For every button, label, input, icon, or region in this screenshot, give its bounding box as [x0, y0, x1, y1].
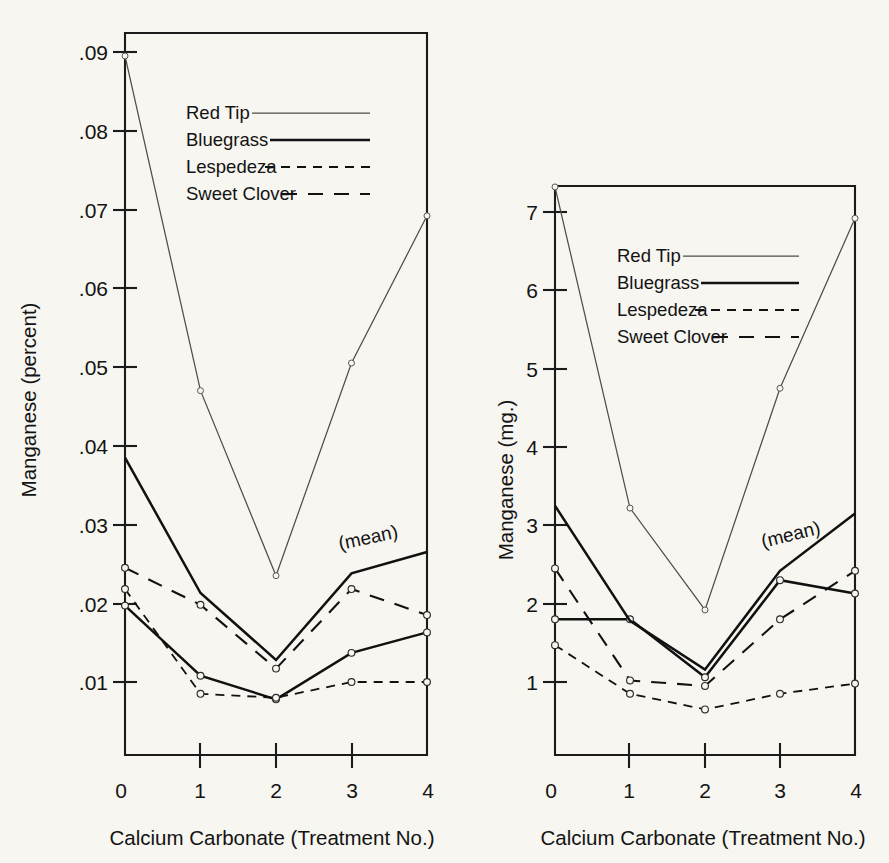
- right-series-layer: [552, 184, 859, 713]
- legend-label-red-tip: Red Tip: [186, 102, 250, 123]
- data-point-bluegrass-4: [424, 629, 431, 636]
- data-point-red-tip-4: [852, 215, 858, 221]
- left-y-tick-labels: .09 .08 .07 .06 .05 .04 .03 .02 .01: [79, 41, 109, 694]
- data-point-sweet-clover-1: [197, 601, 204, 608]
- right-xtick-label-4: 4: [850, 779, 862, 802]
- chart-panel-left: Manganese (percent) .09 .08 .07 .06: [0, 0, 444, 863]
- data-point-red-tip-0: [122, 53, 128, 59]
- data-point-red-tip-1: [198, 388, 204, 394]
- left-legend: Red Tip Bluegrass Lespedeza Sweet Clover: [186, 102, 370, 204]
- data-point-bluegrass-3: [777, 577, 784, 584]
- left-y-axis-title: Manganese (percent): [17, 303, 40, 498]
- data-point-bluegrass-1: [197, 672, 204, 679]
- right-xtick-label-0: 0: [545, 779, 557, 802]
- right-ytick-label-3: 4: [526, 436, 538, 459]
- data-point-sweet-clover-3: [777, 616, 784, 623]
- data-point-sweet-clover-0: [122, 564, 129, 571]
- left-series-layer: [122, 53, 431, 703]
- right-xtick-label-2: 2: [699, 779, 711, 802]
- data-point-lespedeza-2: [702, 706, 709, 713]
- series-line-sweet-clover: [125, 568, 427, 669]
- right-chart-svg: Manganese (mg.) 7 6 5 4 3 2 1: [445, 0, 889, 863]
- data-point-bluegrass-3: [348, 649, 355, 656]
- data-point-sweet-clover-3: [348, 586, 355, 593]
- data-point-red-tip-2: [702, 607, 708, 613]
- chart-panel-right: Manganese (mg.) 7 6 5 4 3 2 1: [445, 0, 889, 863]
- series-line-bluegrass: [555, 580, 855, 677]
- data-point-lespedeza-0: [552, 642, 559, 649]
- right-xtick-label-3: 3: [774, 779, 786, 802]
- data-point-lespedeza-3: [348, 679, 355, 686]
- data-point-red-tip-0: [552, 184, 558, 190]
- right-y-tick-labels: 7 6 5 4 3 2 1: [526, 201, 538, 694]
- left-mean-annotation: (mean): [336, 521, 399, 554]
- right-xtick-label-1: 1: [623, 779, 635, 802]
- left-ytick-label-2: .07: [79, 199, 108, 222]
- left-xtick-label-0: 0: [115, 779, 127, 802]
- data-point-sweet-clover-2: [273, 665, 280, 672]
- left-x-tick-labels: 0 1 2 3 4: [115, 779, 434, 802]
- data-point-sweet-clover-4: [852, 567, 859, 574]
- data-point-bluegrass-0: [552, 616, 559, 623]
- right-ytick-label-1: 6: [526, 279, 538, 302]
- series-line-mean: [125, 458, 427, 660]
- left-xtick-label-4: 4: [422, 779, 434, 802]
- left-ytick-label-1: .08: [79, 120, 108, 143]
- legend-label-sweet-clover: Sweet Clover: [186, 183, 296, 204]
- left-xtick-label-3: 3: [346, 779, 358, 802]
- legend-label-bluegrass-right: Bluegrass: [617, 272, 699, 293]
- left-chart-svg: Manganese (percent) .09 .08 .07 .06: [0, 0, 444, 863]
- left-ytick-label-4: .05: [79, 356, 108, 379]
- data-point-bluegrass-2: [702, 674, 709, 681]
- right-ytick-label-6: 1: [526, 671, 538, 694]
- data-point-bluegrass-0: [122, 602, 129, 609]
- data-point-bluegrass-4: [852, 590, 859, 597]
- data-point-red-tip-3: [777, 385, 783, 391]
- legend-label-lespedeza: Lespedeza: [186, 156, 277, 177]
- right-legend: Red Tip Bluegrass Lespedeza Sweet Clover: [617, 245, 799, 347]
- data-point-lespedeza-2: [273, 694, 280, 701]
- data-point-red-tip-4: [424, 213, 430, 219]
- right-ytick-label-4: 3: [526, 514, 538, 537]
- data-point-red-tip-3: [349, 360, 355, 366]
- right-ytick-label-5: 2: [526, 593, 538, 616]
- data-point-sweet-clover-4: [424, 612, 431, 619]
- left-ytick-label-6: .03: [79, 514, 108, 537]
- left-ytick-label-3: .06: [79, 277, 108, 300]
- right-ytick-label-2: 5: [526, 358, 538, 381]
- data-point-red-tip-2: [273, 573, 279, 579]
- left-xtick-label-2: 2: [270, 779, 282, 802]
- data-point-sweet-clover-2: [702, 683, 709, 690]
- data-point-red-tip-1: [627, 505, 633, 511]
- left-ytick-label-0: .09: [79, 41, 108, 64]
- legend-label-sweet-clover-right: Sweet Clover: [617, 326, 727, 347]
- left-x-axis-title: Calcium Carbonate (Treatment No.): [109, 826, 434, 849]
- right-y-axis-title: Manganese (mg.): [494, 400, 517, 561]
- series-line-bluegrass: [125, 606, 427, 700]
- legend-label-lespedeza-right: Lespedeza: [617, 299, 708, 320]
- right-x-tick-labels: 0 1 2 3 4: [545, 779, 862, 802]
- figure-canvas: Manganese (percent) .09 .08 .07 .06: [0, 0, 889, 863]
- data-point-lespedeza-1: [197, 690, 204, 697]
- left-ytick-label-7: .02: [79, 593, 108, 616]
- legend-label-red-tip-right: Red Tip: [617, 245, 681, 266]
- data-point-lespedeza-4: [424, 679, 431, 686]
- left-ytick-label-8: .01: [79, 671, 108, 694]
- data-point-lespedeza-3: [777, 690, 784, 697]
- left-ytick-label-5: .04: [79, 435, 109, 458]
- data-point-sweet-clover-0: [552, 565, 559, 572]
- data-point-lespedeza-1: [627, 690, 634, 697]
- legend-label-bluegrass: Bluegrass: [186, 129, 268, 150]
- data-point-sweet-clover-1: [627, 677, 634, 684]
- series-line-red-tip: [125, 56, 427, 576]
- right-x-axis-title: Calcium Carbonate (Treatment No.): [540, 826, 865, 849]
- data-point-lespedeza-4: [852, 680, 859, 687]
- left-xtick-label-1: 1: [194, 779, 206, 802]
- right-ytick-label-0: 7: [526, 201, 538, 224]
- data-point-lespedeza-0: [122, 586, 129, 593]
